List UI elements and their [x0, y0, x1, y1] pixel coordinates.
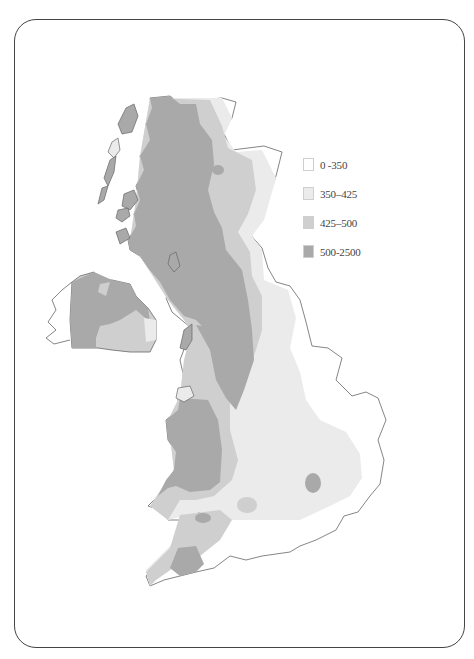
outer-hebrides: [118, 104, 138, 134]
legend: 0 -350 350–425 425–500 500-2500: [303, 150, 361, 266]
legend-swatch: [303, 216, 314, 229]
legend-swatch: [303, 187, 314, 200]
legend-label: 500-2500: [320, 246, 361, 258]
donegal-outline: [46, 282, 72, 344]
legend-label: 425–500: [320, 217, 357, 229]
legend-item-350-425: 350–425: [303, 179, 361, 208]
rainfall-map: [0, 0, 474, 659]
legend-swatch: [303, 245, 314, 258]
legend-item-500-2500: 500-2500: [303, 237, 361, 266]
legend-item-0-350: 0 -350: [303, 150, 361, 179]
legend-item-425-500: 425–500: [303, 208, 361, 237]
legend-swatch: [303, 158, 314, 171]
legend-label: 350–425: [320, 188, 357, 200]
legend-label: 0 -350: [320, 159, 347, 171]
